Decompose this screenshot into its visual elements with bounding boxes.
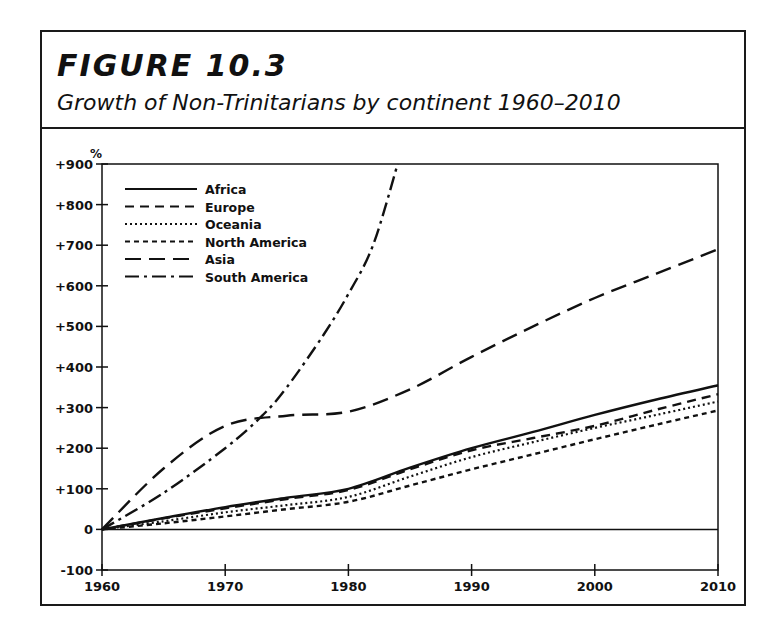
line-chart: +900+800+700+600+500+400+300+200+1000-10… [0, 0, 781, 630]
y-tick-label: +200 [55, 441, 93, 456]
x-tick-label: 1970 [207, 579, 243, 594]
x-tick-label: 1990 [454, 579, 490, 594]
legend-label: Africa [205, 182, 246, 197]
plot-area [102, 164, 718, 570]
series-line-europe [102, 394, 718, 529]
y-tick-label: +600 [55, 279, 93, 294]
legend-label: South America [205, 270, 308, 285]
series-line-africa [102, 385, 718, 529]
chart-legend: AfricaEuropeOceaniaNorth AmericaAsiaSout… [125, 182, 308, 285]
legend-label: North America [205, 235, 307, 250]
y-tick-label: +800 [55, 198, 93, 213]
y-tick-label: +300 [55, 401, 93, 416]
y-axis-unit: % [90, 147, 102, 161]
x-tick-label: 1980 [330, 579, 366, 594]
x-tick-label: 2010 [700, 579, 736, 594]
y-tick-label: -100 [60, 563, 93, 578]
y-tick-label: +400 [55, 360, 93, 375]
y-tick-label: 0 [84, 522, 93, 537]
legend-label: Oceania [205, 217, 262, 232]
legend-label: Asia [205, 252, 235, 267]
y-tick-label: +100 [55, 482, 93, 497]
y-tick-label: +700 [55, 238, 93, 253]
series-line-oceania [102, 402, 718, 530]
y-tick-label: +900 [55, 157, 93, 172]
y-tick-label: +500 [55, 319, 93, 334]
series-line-asia [102, 249, 718, 529]
chart-axes: +900+800+700+600+500+400+300+200+1000-10… [55, 147, 736, 594]
chart-lines [102, 164, 718, 529]
legend-label: Europe [205, 200, 255, 215]
x-tick-label: 2000 [577, 579, 613, 594]
x-tick-label: 1960 [84, 579, 120, 594]
